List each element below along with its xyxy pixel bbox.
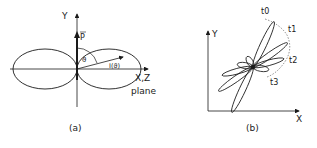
- plane-label-xz: X,Z: [135, 73, 150, 83]
- panel-b-rotating-pattern: Y X t0 t1 t2 t3 (b): [208, 7, 302, 133]
- lobe-t3-opposite: [237, 61, 254, 70]
- x-label-b: X: [296, 114, 302, 124]
- caption-b: (b): [246, 123, 259, 133]
- caption-a: (a): [69, 123, 82, 133]
- t0-label: t0: [261, 7, 269, 16]
- t2-label: t2: [289, 56, 297, 65]
- lobe-origin: [251, 65, 255, 69]
- figure-canvas: Y P ϑ I(ϑ) X,Z plane (a): [0, 0, 317, 148]
- intensity-label: I(ϑ): [109, 62, 120, 70]
- theta-label: ϑ: [82, 56, 86, 64]
- t3-label: t3: [270, 78, 278, 87]
- plane-label-word: plane: [131, 86, 156, 96]
- y-label-b: Y: [211, 29, 218, 39]
- panel-a-dipole-pattern: Y P ϑ I(ϑ) X,Z plane (a): [10, 11, 156, 133]
- y-label-a: Y: [61, 11, 68, 21]
- lobe-t3: [252, 64, 269, 73]
- t1-label: t1: [288, 25, 296, 34]
- p-label: P: [80, 33, 85, 42]
